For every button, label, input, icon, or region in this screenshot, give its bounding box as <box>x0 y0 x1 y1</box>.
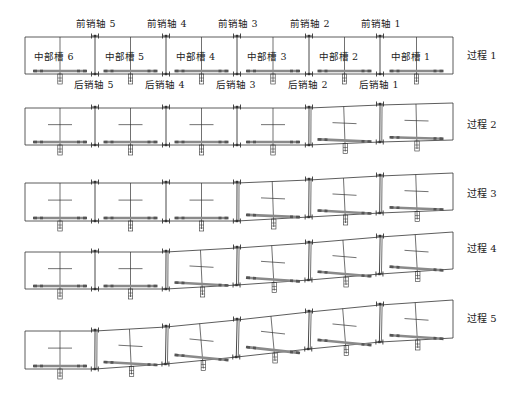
middle-trough-segment <box>175 250 229 297</box>
pin-center <box>378 341 380 343</box>
center-axis <box>200 324 204 369</box>
pin-center <box>165 181 167 183</box>
center-axis <box>343 240 346 285</box>
middle-trough-segment <box>246 182 300 230</box>
pin-center <box>94 329 96 331</box>
trough-label: 中部槽 6 <box>34 51 73 62</box>
middle-trough-segment <box>246 246 300 293</box>
center-axis <box>200 250 202 295</box>
front-pin-label: 前销轴 3 <box>218 18 257 29</box>
cross-mark <box>405 120 429 121</box>
process-3 <box>25 173 453 232</box>
pin-center <box>379 35 381 37</box>
trough-label: 中部槽 1 <box>391 51 430 62</box>
center-axis <box>344 107 346 152</box>
rear-pin-label: 后销轴 4 <box>145 79 184 90</box>
pin-center <box>308 310 310 312</box>
pin-center <box>94 220 96 222</box>
pin-center <box>379 174 381 176</box>
joint-link <box>237 248 238 285</box>
joint-link <box>308 243 309 280</box>
pin-center <box>236 35 238 37</box>
process-label: 过程 3 <box>467 187 497 199</box>
middle-trough-segment <box>318 240 372 287</box>
joint-link-2 <box>167 327 168 364</box>
cross-mark <box>333 256 357 258</box>
pin-center <box>94 35 96 37</box>
trough-label: 中部槽 2 <box>319 51 358 62</box>
front-pin-label: 前销轴 5 <box>76 18 115 29</box>
pin-center <box>94 368 96 370</box>
joint-link <box>308 312 309 349</box>
center-axis <box>416 175 418 220</box>
center-axis <box>416 104 417 149</box>
process-label: 过程 5 <box>467 312 497 324</box>
pin-center <box>236 144 238 146</box>
middle-trough-segment <box>33 183 87 231</box>
middle-trough-segment <box>104 252 158 299</box>
pin-center <box>378 212 380 214</box>
front-pin-label: 前销轴 2 <box>290 18 329 29</box>
pin-center <box>94 288 96 290</box>
pin-center <box>165 220 167 222</box>
center-axis <box>129 329 131 375</box>
pin-center <box>236 220 238 222</box>
process-4 <box>25 232 453 299</box>
process-1 <box>25 34 453 85</box>
pin-center <box>165 35 167 37</box>
middle-trough-segment <box>390 104 444 151</box>
joint-link <box>379 237 380 274</box>
middle-trough-segment <box>318 309 372 356</box>
pin-center <box>379 73 381 75</box>
bottom-edge <box>25 338 453 369</box>
pin-center <box>236 318 238 320</box>
pin-center <box>379 235 381 237</box>
middle-trough-segment <box>246 316 300 363</box>
pin-center <box>236 106 238 108</box>
pin-center <box>308 106 310 108</box>
joint-link <box>379 305 380 342</box>
center-axis <box>343 178 345 223</box>
trough-label: 中部槽 5 <box>105 51 144 62</box>
pin-center <box>236 246 238 248</box>
joint-link <box>165 327 166 364</box>
middle-trough-segment <box>318 107 372 154</box>
middle-trough-segment <box>33 108 87 155</box>
middle-trough-segment <box>33 252 87 299</box>
joint-link-2 <box>310 243 311 280</box>
top-edge <box>25 173 453 183</box>
pin-center <box>308 35 310 37</box>
middle-trough-segment <box>175 324 229 371</box>
pin-center <box>308 73 310 75</box>
pin-center <box>236 181 238 183</box>
pin-center <box>94 250 96 252</box>
middle-trough-segment <box>104 329 158 377</box>
pin-center <box>94 181 96 183</box>
rear-pin-label: 后销轴 5 <box>74 79 113 90</box>
pin-center <box>236 73 238 75</box>
middle-trough-segment <box>104 183 158 231</box>
pin-center <box>308 144 310 146</box>
rear-pin-label: 后销轴 1 <box>359 79 398 90</box>
middle-trough-segment <box>390 175 444 222</box>
process-label: 过程 2 <box>467 118 497 130</box>
center-axis <box>272 182 274 228</box>
pin-center <box>235 284 237 286</box>
cross-mark <box>405 191 429 192</box>
pin-center <box>165 288 167 290</box>
rear-pin-label: 后销轴 2 <box>288 79 327 90</box>
pin-center <box>308 241 310 243</box>
pin-center <box>165 144 167 146</box>
joint-link-2 <box>239 248 240 285</box>
process-2 <box>25 102 453 156</box>
pin-center <box>165 106 167 108</box>
middle-trough-segment <box>246 108 300 155</box>
pin-center <box>379 303 381 305</box>
rear-pin-label: 后销轴 3 <box>216 79 255 90</box>
pin-center <box>165 325 167 327</box>
pin-center <box>307 279 309 281</box>
front-pin-label: 前销轴 1 <box>361 18 400 29</box>
middle-trough-segment <box>390 303 444 351</box>
middle-trough-segment <box>33 331 87 379</box>
pin-center <box>165 73 167 75</box>
